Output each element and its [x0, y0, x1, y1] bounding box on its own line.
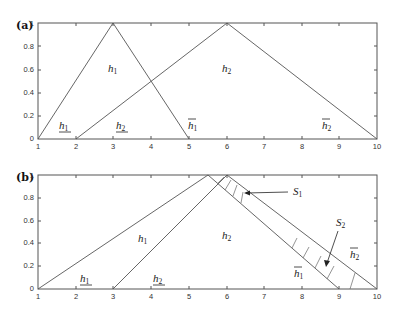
svg-text:5: 5	[187, 142, 191, 151]
label-lower-h1-b: h1	[80, 272, 90, 286]
svg-text:5: 5	[187, 292, 191, 301]
axes-box-b	[38, 175, 377, 289]
svg-text:0.2: 0.2	[24, 111, 34, 120]
label-lower-h2-a: h2	[116, 119, 126, 133]
svg-text:4: 4	[149, 292, 153, 301]
label-h1-a: h1	[108, 62, 118, 76]
svg-text:0: 0	[30, 134, 34, 143]
label-h1-b: h1	[138, 232, 148, 246]
label-h2-a: h2	[222, 62, 232, 76]
svg-text:4: 4	[149, 142, 153, 151]
svg-text:0.8: 0.8	[24, 42, 34, 51]
label-upper-h2-a: h2	[322, 119, 332, 133]
panel-b: (b) 0 0.2 0.4 0.6 0.8 1 1 2 3 4 5 6 7 8 …	[16, 171, 381, 301]
hatch-s1	[218, 177, 243, 203]
svg-text:6: 6	[225, 142, 229, 151]
svg-text:0.8: 0.8	[24, 193, 34, 202]
svg-text:2: 2	[74, 142, 78, 151]
panel-a: (a) 0 0.2 0.4 0.6 0.8 1 1 2 3 4 5 6 7 8 …	[16, 19, 381, 151]
svg-text:0: 0	[30, 284, 34, 293]
svg-text:7: 7	[262, 292, 266, 301]
svg-text:7: 7	[262, 142, 266, 151]
svg-text:0.4: 0.4	[24, 238, 34, 247]
svg-text:0.6: 0.6	[24, 65, 34, 74]
svg-text:0.6: 0.6	[24, 216, 34, 225]
svg-text:1: 1	[36, 292, 40, 301]
svg-text:8: 8	[300, 292, 304, 301]
svg-text:6: 6	[225, 292, 229, 301]
svg-text:3: 3	[111, 142, 115, 151]
label-lower-h2-b: h2	[153, 272, 163, 286]
svg-text:1: 1	[36, 142, 40, 151]
label-upper-h1-a: h1	[188, 119, 198, 133]
y-ticks-b: 0 0.2 0.4 0.6 0.8 1	[24, 171, 377, 293]
label-s1: S1	[293, 185, 303, 199]
svg-text:9: 9	[337, 292, 341, 301]
svg-text:2: 2	[74, 292, 78, 301]
label-s2: S2	[336, 216, 346, 230]
figure: (a) 0 0.2 0.4 0.6 0.8 1 1 2 3 4 5 6 7 8 …	[0, 0, 400, 314]
label-upper-h2-b: h2	[350, 248, 360, 262]
svg-text:0.4: 0.4	[24, 88, 34, 97]
svg-text:9: 9	[337, 142, 341, 151]
svg-text:3: 3	[111, 292, 115, 301]
hatch-s2	[292, 238, 355, 289]
label-upper-h1-b: h1	[294, 267, 304, 281]
arrowhead-s2-icon	[324, 260, 330, 267]
arrowhead-s1-icon	[244, 191, 250, 196]
svg-text:1: 1	[30, 171, 34, 180]
svg-text:10: 10	[373, 142, 381, 151]
svg-text:0.2: 0.2	[24, 261, 34, 270]
arrow-s1	[246, 192, 288, 193]
svg-text:8: 8	[300, 142, 304, 151]
svg-text:1: 1	[30, 19, 34, 28]
label-h2-b: h2	[222, 229, 232, 243]
svg-text:10: 10	[373, 292, 381, 301]
label-lower-h1-a: h1	[59, 119, 69, 133]
